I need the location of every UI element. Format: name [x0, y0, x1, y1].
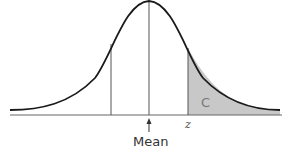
- z-label: z: [185, 118, 191, 131]
- normal-curve-diagram: [0, 0, 286, 154]
- bell-curve: [10, 1, 280, 110]
- mean-arrow-head-icon: [147, 118, 152, 124]
- mean-label: Mean: [133, 134, 168, 149]
- shaded-region-label: C: [201, 95, 210, 110]
